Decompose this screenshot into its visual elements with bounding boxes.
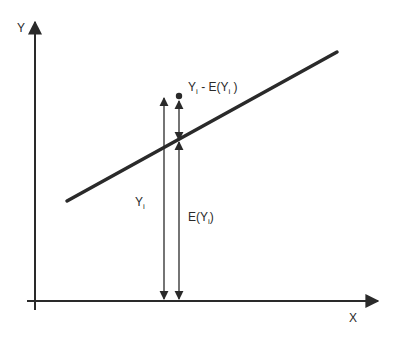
residual-label-end: ) (230, 80, 237, 94)
residual-label-base: Y (188, 80, 196, 94)
regression-line (67, 52, 337, 201)
observed-label-sub: i (143, 202, 145, 211)
x-axis-label: X (349, 312, 357, 324)
residual-label: Yi - E(Yi ) (188, 81, 238, 96)
diagram-canvas (0, 0, 395, 339)
expected-eyi-label: E(Yi) (188, 211, 214, 226)
expected-label-end: ) (210, 210, 214, 224)
observed-label-base: Y (135, 195, 143, 209)
y-axis-label: Y (17, 22, 25, 34)
residual-label-rest: - E(Y (198, 80, 229, 94)
expected-label-pre: E(Y (188, 210, 208, 224)
observation-point (176, 93, 182, 99)
observed-yi-label: Yi (135, 196, 145, 211)
